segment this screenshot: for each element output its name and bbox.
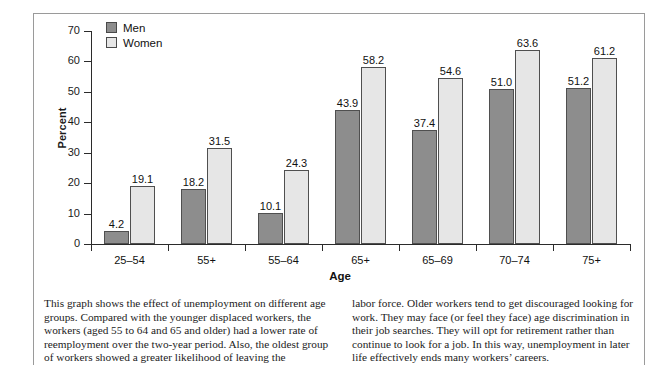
bar-value-label: 61.2 [594,45,615,57]
y-tick-label: 20 [68,176,84,188]
bar-value-label: 63.6 [517,37,538,49]
y-tick-label: 70 [68,24,84,36]
y-tick: 60 [84,61,91,62]
caption-column-left: This graph shows the effect of unemploym… [44,297,330,365]
bar-men: 18.2 [181,189,206,244]
bar-value-label: 10.1 [260,200,281,212]
bar-women: 54.6 [438,78,463,244]
y-tick: 70 [84,31,91,32]
bar-value-label: 18.2 [183,176,204,188]
bar-group: 10.124.3 [258,31,309,244]
x-tick [322,245,323,251]
y-tick-label: 10 [68,207,84,219]
bar-women: 63.6 [515,50,540,244]
figure-frame: Percent 010203040506070 Men Women 4.219.… [33,13,645,365]
y-tick: 0 [84,244,91,245]
x-tick [399,245,400,251]
bar-value-label: 19.1 [132,173,153,185]
x-tick [553,245,554,251]
bar-group: 51.261.2 [566,31,617,244]
x-tick [168,245,169,251]
bar-value-label: 58.2 [363,54,384,66]
x-tick [91,245,92,251]
y-tick: 20 [84,183,91,184]
x-tick [630,245,631,251]
y-tick-label: 50 [68,85,84,97]
x-axis-category-label: 70–74 [499,254,530,266]
y-axis-title: Percent [56,88,68,168]
caption-column-right: labor force. Older workers tend to get d… [352,297,638,365]
x-axis-category-label: 55–64 [268,254,299,266]
y-tick-label: 0 [74,237,84,249]
bar-women: 61.2 [592,58,617,244]
bar-group: 51.063.6 [489,31,540,244]
bar-group: 43.958.2 [335,31,386,244]
y-tick-label: 30 [68,146,84,158]
bar-men: 51.0 [489,89,514,244]
x-axis-category-label: 65+ [351,254,370,266]
bar-men: 43.9 [335,110,360,244]
figure-caption: This graph shows the effect of unemploym… [34,297,646,365]
x-axis-category-label: 25–54 [114,254,145,266]
bar-men: 4.2 [104,231,129,244]
bar-group: 4.219.1 [104,31,155,244]
y-tick-label: 40 [68,115,84,127]
x-axis-category-label: 75+ [582,254,601,266]
bar-value-label: 51.0 [491,76,512,88]
bar-men: 37.4 [412,130,437,244]
x-axis-title: Age [34,270,646,282]
y-tick-label: 60 [68,54,84,66]
bar-value-label: 31.5 [209,135,230,147]
x-axis-category-label: 55+ [197,254,216,266]
y-tick: 30 [84,153,91,154]
bar-group: 37.454.6 [412,31,463,244]
x-axis-line [91,244,631,245]
bar-value-label: 4.2 [109,218,124,230]
bar-value-label: 24.3 [286,157,307,169]
y-tick: 50 [84,92,91,93]
y-tick: 40 [84,122,91,123]
bar-value-label: 51.2 [568,75,589,87]
plot-area: 4.219.118.231.510.124.343.958.237.454.65… [91,31,630,244]
bar-men: 51.2 [566,88,591,244]
bar-women: 31.5 [207,148,232,244]
bar-value-label: 43.9 [337,97,358,109]
bar-value-label: 54.6 [440,65,461,77]
y-tick: 10 [84,214,91,215]
bar-women: 58.2 [361,67,386,244]
bar-women: 19.1 [130,186,155,244]
bar-women: 24.3 [284,170,309,244]
bar-men: 10.1 [258,213,283,244]
x-axis-category-label: 65–69 [422,254,453,266]
bar-chart: Percent 010203040506070 Men Women 4.219.… [34,14,646,289]
bar-value-label: 37.4 [414,117,435,129]
x-tick [476,245,477,251]
x-tick [245,245,246,251]
bar-group: 18.231.5 [181,31,232,244]
